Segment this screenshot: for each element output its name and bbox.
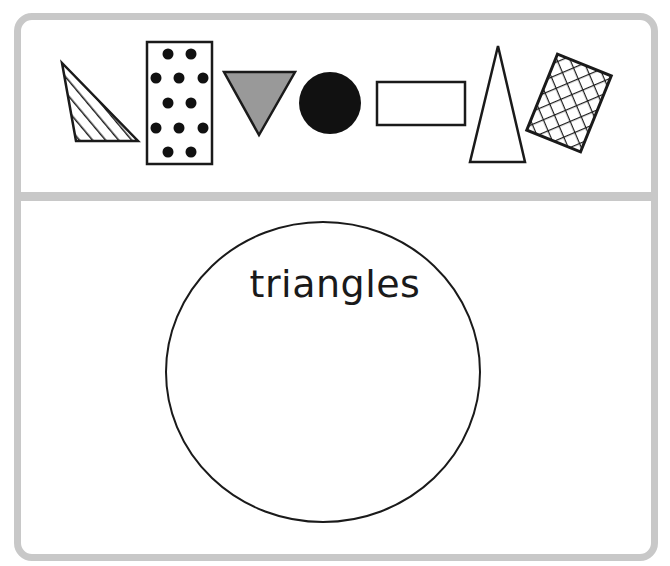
black-circle-shape[interactable] [299, 72, 361, 134]
gray-inverted-triangle-shape[interactable] [224, 72, 295, 135]
circle-label: triangles [0, 262, 670, 306]
plain-rectangle-shape[interactable] [377, 82, 465, 125]
striped-triangle-shape[interactable] [55, 55, 145, 150]
dotted-rectangle-shape[interactable] [147, 42, 212, 164]
crosshatch-rectangle-shape[interactable] [527, 54, 611, 152]
tall-triangle-shape[interactable] [470, 46, 525, 162]
